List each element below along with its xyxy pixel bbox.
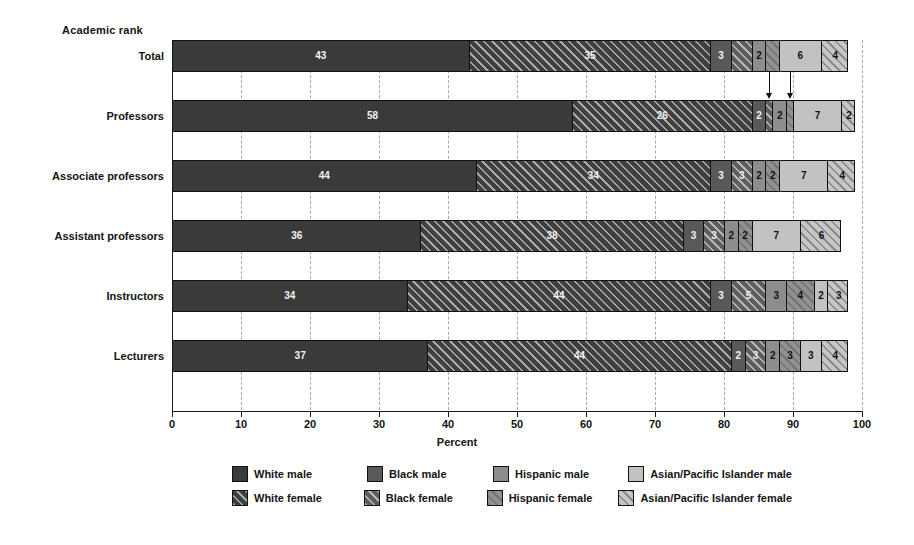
x-tick-100 — [862, 411, 863, 417]
segment-value-label: 58 — [367, 111, 378, 121]
bar-segment-black-male: 3 — [711, 281, 732, 311]
bar-segment-asian-female: 3 — [828, 281, 848, 311]
segment-value-label: 3 — [711, 231, 717, 241]
legend-swatch-black-male-icon — [367, 466, 383, 482]
segment-value-label: 6 — [798, 51, 804, 61]
bar-segment-white-male: 36 — [173, 221, 421, 251]
x-tick-90 — [793, 411, 794, 417]
segment-value-label: 5 — [746, 291, 752, 301]
segment-value-label: 3 — [836, 291, 842, 301]
x-tick-30 — [379, 411, 380, 417]
legend-item-black-female[interactable]: Black female — [364, 490, 487, 506]
bar-segment-hispanic-male: 2 — [766, 341, 780, 371]
legend-row: White maleBlack maleHispanic maleAsian/P… — [232, 462, 792, 486]
bar-segment-hispanic-male: 2 — [753, 41, 767, 71]
bar-segment-black-female — [766, 101, 773, 131]
legend-item-asian-female[interactable]: Asian/Pacific Islander female — [618, 490, 792, 506]
x-tick-label-30: 30 — [373, 418, 385, 430]
legend-item-hispanic-male[interactable]: Hispanic male — [493, 466, 628, 482]
legend-swatch-asian-female-icon — [618, 490, 634, 506]
legend-label: Black male — [389, 468, 446, 480]
bar-segment-white-male: 58 — [173, 101, 573, 131]
legend-label: White female — [254, 492, 322, 504]
segment-value-label: 34 — [588, 171, 599, 181]
segment-value-label: 37 — [295, 351, 306, 361]
bar-row: 43353264 — [172, 40, 848, 72]
segment-value-label: 3 — [753, 351, 759, 361]
bar-segment-black-female: 5 — [732, 281, 767, 311]
segment-value-label: 2 — [742, 231, 748, 241]
segment-value-label: 6 — [819, 231, 825, 241]
segment-value-label: 4 — [833, 351, 839, 361]
row-label-professors: Professors — [4, 110, 164, 122]
x-axis-title: Percent — [0, 436, 914, 448]
x-tick-40 — [448, 411, 449, 417]
bar-segment-asian-male: 7 — [794, 101, 842, 131]
bar-segment-hispanic-male: 2 — [725, 221, 739, 251]
bar-segment-black-female: 3 — [746, 341, 767, 371]
x-tick-60 — [586, 411, 587, 417]
bar-segment-white-female: 44 — [408, 281, 712, 311]
bar-segment-hispanic-female — [787, 101, 794, 131]
x-tick-label-40: 40 — [442, 418, 454, 430]
segment-value-label: 2 — [770, 171, 776, 181]
bar-segment-black-male: 3 — [711, 41, 732, 71]
bar-segment-asian-male: 3 — [801, 341, 822, 371]
bar-segment-hispanic-female: 2 — [739, 221, 753, 251]
bar-row: 3444353423 — [172, 280, 848, 312]
segment-value-label: 2 — [818, 291, 824, 301]
bar-segment-white-female: 35 — [470, 41, 712, 71]
bar-segment-asian-male: 7 — [753, 221, 801, 251]
row-label-associate-professors: Associate professors — [4, 170, 164, 182]
x-tick-80 — [724, 411, 725, 417]
segment-value-label: 7 — [801, 171, 807, 181]
bar-segment-black-male: 2 — [753, 101, 767, 131]
bar-segment-hispanic-female — [766, 41, 780, 71]
legend-item-white-male[interactable]: White male — [232, 466, 367, 482]
legend-label: Asian/Pacific Islander female — [640, 492, 792, 504]
segment-value-label: 3 — [787, 351, 793, 361]
segment-value-label: 7 — [773, 231, 779, 241]
legend-label: Hispanic male — [515, 468, 589, 480]
stacked-bar-chart: Academic rank Total43353264Professors582… — [0, 0, 914, 545]
bar-segment-white-female: 38 — [421, 221, 683, 251]
bar-segment-black-female: 3 — [732, 161, 753, 191]
x-tick-label-60: 60 — [580, 418, 592, 430]
segment-value-label: 44 — [553, 291, 564, 301]
x-tick-label-70: 70 — [649, 418, 661, 430]
segment-value-label: 3 — [773, 291, 779, 301]
x-tick-label-50: 50 — [511, 418, 523, 430]
x-tick-20 — [310, 411, 311, 417]
bar-segment-black-male: 3 — [684, 221, 705, 251]
bar-segment-hispanic-male: 3 — [766, 281, 787, 311]
legend-item-asian-male[interactable]: Asian/Pacific Islander male — [628, 466, 792, 482]
group-axis-title: Academic rank — [62, 24, 143, 36]
legend-item-black-male[interactable]: Black male — [367, 466, 493, 482]
x-tick-label-20: 20 — [304, 418, 316, 430]
segment-value-label: 3 — [739, 171, 745, 181]
segment-value-label: 34 — [284, 291, 295, 301]
segment-value-label: 3 — [718, 171, 724, 181]
bar-segment-asian-female: 4 — [828, 161, 855, 191]
segment-value-label: 38 — [546, 231, 557, 241]
x-tick-70 — [655, 411, 656, 417]
legend-swatch-asian-male-icon — [628, 466, 644, 482]
legend-label: White male — [254, 468, 312, 480]
legend-swatch-white-female-icon — [232, 490, 248, 506]
bar-segment-asian-female: 2 — [842, 101, 855, 131]
legend-item-white-female[interactable]: White female — [232, 490, 364, 506]
bar-segment-asian-female: 6 — [801, 221, 841, 251]
bar-segment-asian-female: 4 — [822, 41, 849, 71]
bar-row: 3744232334 — [172, 340, 848, 372]
bar-segment-white-female: 44 — [428, 341, 732, 371]
bar-segment-asian-male: 7 — [780, 161, 828, 191]
segment-value-label: 36 — [291, 231, 302, 241]
segment-value-label: 35 — [584, 51, 595, 61]
segment-value-label: 43 — [315, 51, 326, 61]
row-label-lecturers: Lecturers — [4, 350, 164, 362]
x-tick-label-90: 90 — [787, 418, 799, 430]
legend-item-hispanic-female[interactable]: Hispanic female — [487, 490, 619, 506]
bar-segment-hispanic-female: 3 — [780, 341, 801, 371]
callout-arrow-hispanic-female — [790, 72, 791, 94]
bar-row: 58262272 — [172, 100, 855, 132]
